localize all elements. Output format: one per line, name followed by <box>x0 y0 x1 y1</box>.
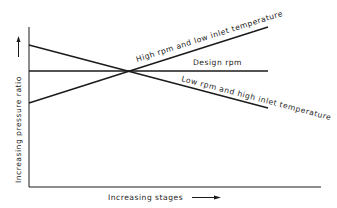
high-rpm-label: High rpm and low inlet temperature <box>135 9 284 64</box>
pressure-ratio-diagram: High rpm and low inlet temperature Desig… <box>0 0 337 208</box>
y-axis-arrow-icon <box>17 36 21 42</box>
x-axis-label: Increasing stages <box>108 193 183 202</box>
x-axis-arrow-icon <box>214 196 221 200</box>
y-axis-label: Increasing pressure ratio <box>14 76 23 183</box>
design-rpm-label: Design rpm <box>193 58 242 67</box>
low-rpm-label: Low rpm and high inlet temperature <box>180 74 332 122</box>
